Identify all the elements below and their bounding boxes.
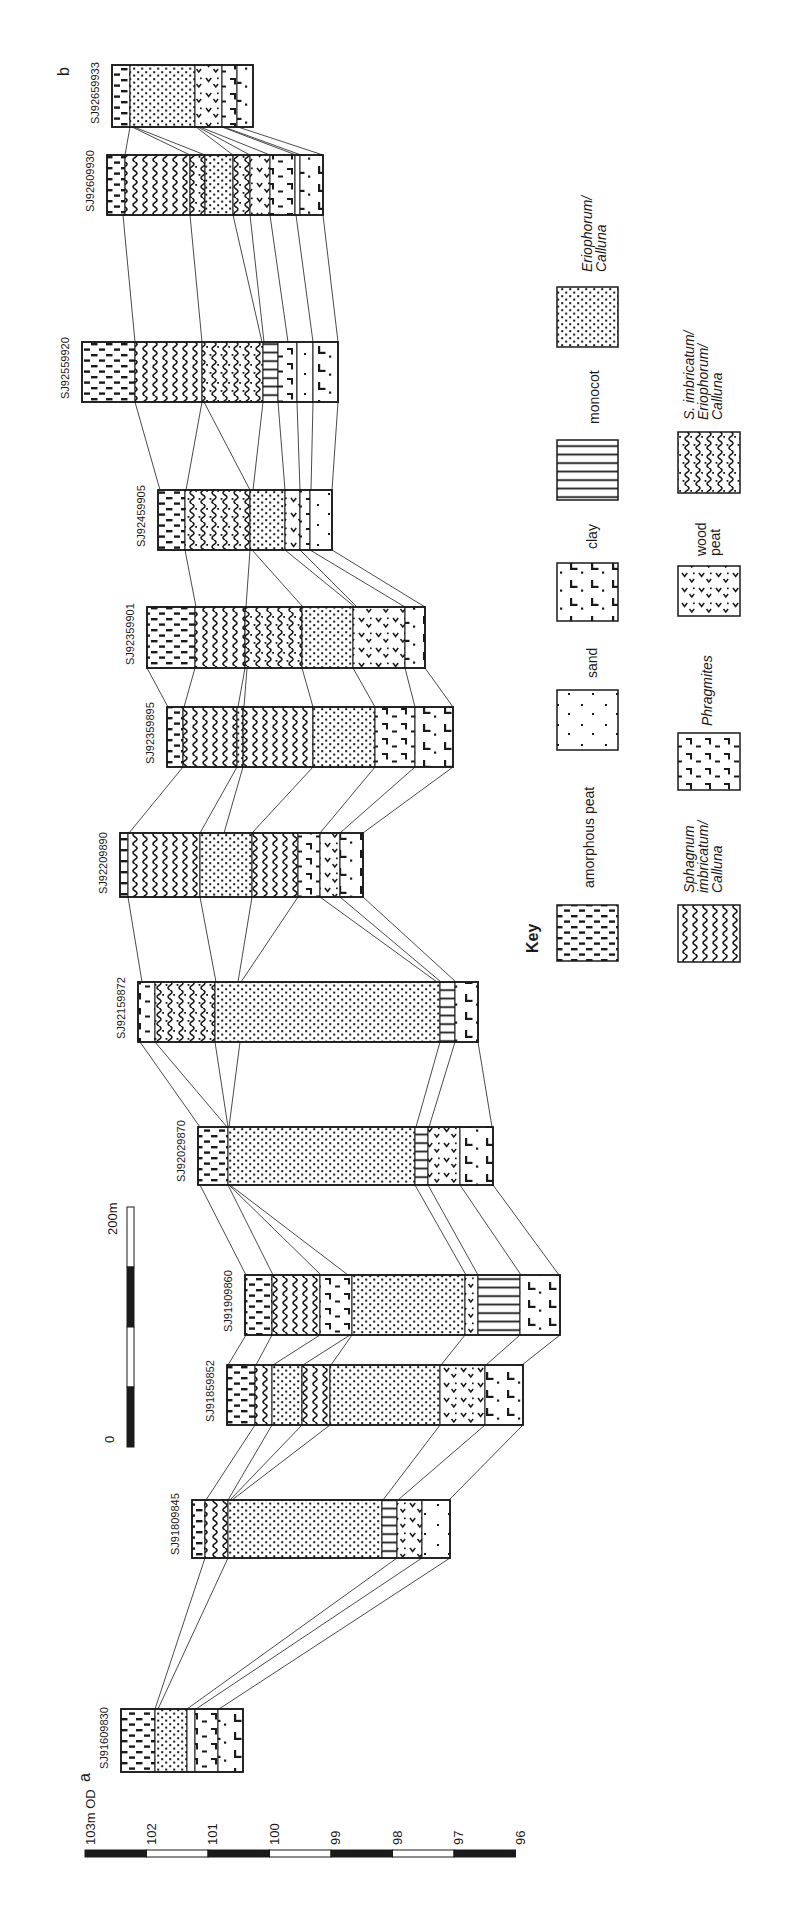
segment-sp [243,707,313,767]
core-column: SJ92159872 [115,977,478,1042]
correlation-line [155,1558,205,1709]
segment-eo [130,65,195,127]
distance-scale-block [127,1387,134,1447]
segment-cl [520,1275,560,1335]
elevation-scale-block [393,1850,455,1857]
correlation-line [253,402,263,490]
correlation-line [486,1335,520,1365]
segment-cl [300,155,323,215]
segment-sa [422,1500,450,1558]
correlation-line [478,1042,492,1127]
correlation-line [238,127,323,155]
segment-cl [460,1127,493,1185]
correlation-line [425,668,453,707]
segment-sp [272,1275,320,1335]
segment-am [245,1275,272,1335]
distance-scale-block [127,1207,134,1267]
correlation-line [228,1185,273,1275]
distance-scale-block [127,1267,134,1327]
segment-am [147,607,195,668]
correlation-line [320,767,375,833]
elevation-scale: 103m OD10210110099989796 [83,1789,528,1857]
correlation-line [244,668,247,707]
segment-eo [228,1127,415,1185]
segment-ph [270,155,295,215]
core-label: SJ92209890 [97,832,109,894]
correlation-line [186,402,202,490]
key-label-sa: sand [584,648,600,678]
segment-sa [297,342,313,402]
distance-scale-block [127,1327,134,1387]
correlation-line [198,127,250,155]
correlation-line [303,1335,350,1365]
elevation-scale-block [208,1850,270,1857]
segment-eo [228,1500,382,1558]
segment-cl [455,982,478,1042]
correlation-line [129,767,183,833]
correlation-line [278,402,285,490]
correlation-line [311,402,313,490]
core-column: SJ92359901 [124,603,425,668]
segment-ph [375,707,415,767]
segment-sp [125,155,190,215]
segment-cl [237,65,253,127]
core-label: SJ92359895 [144,702,156,764]
panel-letter-b: b [55,67,72,76]
key-title: Key [524,924,541,953]
core-column: SJ92209890 [97,832,363,897]
segment-eo [237,707,243,767]
segment-ph [320,1275,352,1335]
core-label: SJ91909860 [222,1270,234,1332]
segment-am [120,833,128,897]
key-swatch-eo [557,287,618,347]
correlation-line [429,1042,455,1127]
key-swatch-ph [678,733,740,790]
segment-sp [302,1365,330,1425]
segment-eo [250,490,285,550]
segment-eo [205,155,233,215]
correlation-line [196,1558,422,1709]
correlation-line [300,550,357,607]
elevation-tick-label: 97 [451,1831,466,1845]
segment-eo [302,607,353,668]
segment-sp [205,1500,228,1558]
segment-eo [272,1365,302,1425]
segment-wh [187,1709,195,1772]
elevation-scale-block [270,1850,332,1857]
segment-am [158,490,185,550]
segment-sp [128,833,200,897]
segment-ph [222,65,237,127]
correlation-line [415,1185,466,1275]
segment-se [155,982,215,1042]
segment-eo [215,982,440,1042]
segment-mo [415,1127,428,1185]
key-swatch-wd [678,566,740,616]
segment-am [121,1709,155,1772]
key-label-se: S. imbricatum/Eriophorum/Calluna [681,328,725,420]
correlation-line [228,1425,272,1500]
distance-scale-zero-label: 0 [102,1436,117,1443]
elevation-tick-label: 98 [390,1831,405,1845]
core-column: SJ91909860 [222,1270,560,1335]
segment-eo [330,1365,440,1425]
correlation-line [128,897,142,982]
elevation-scale-block [454,1850,516,1857]
correlation-line [332,402,338,490]
segment-ph [298,833,320,897]
correlation-line [228,1335,246,1365]
segment-ph [278,342,297,402]
correlation-line [340,767,415,833]
core-column: SJ92659933 [89,62,253,127]
elevation-tick-label: 101 [205,1823,220,1845]
segment-am [198,1127,228,1185]
key-label-wd: woodpeat [693,523,723,557]
segment-ph [138,982,155,1042]
key-swatch-cl [557,563,618,621]
segment-mo [478,1275,520,1335]
correlation-line [323,215,338,342]
correlation-line [158,1558,228,1709]
correlation-line [196,127,233,155]
correlation-line [320,897,437,982]
correlation-line [353,668,375,707]
core-label: SJ92459905 [135,485,147,547]
